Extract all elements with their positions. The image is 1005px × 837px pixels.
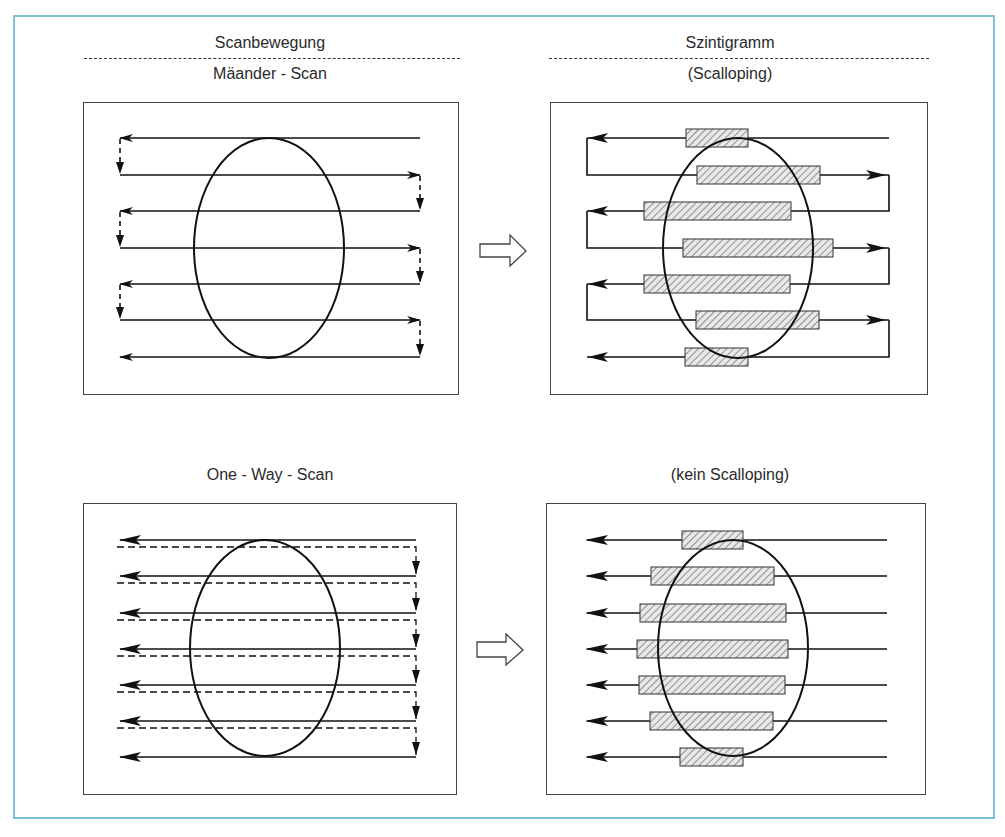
diagram-graphics [0, 0, 1005, 837]
organ-outline-bl [190, 540, 340, 756]
meander-drop-arrowheads [116, 162, 424, 356]
meander-scan-lines [120, 138, 420, 357]
one-way-scan-lines [120, 540, 416, 757]
hollow-right-arrow-icon [480, 235, 526, 266]
kein-scalloping-hatched-bars [637, 531, 788, 766]
one-way-return-lines [117, 547, 416, 755]
hollow-right-arrow-icon [477, 634, 523, 665]
